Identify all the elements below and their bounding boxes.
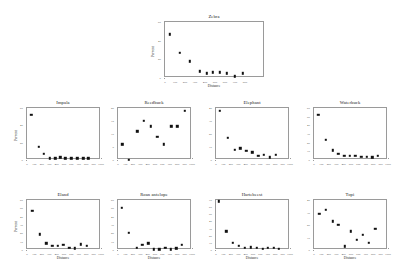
y-tick (164, 59, 165, 60)
data-point (350, 230, 352, 232)
data-point (218, 200, 220, 202)
x-tick (231, 248, 232, 249)
y-tick-label: 60 (20, 106, 23, 110)
y-tick (313, 134, 314, 135)
x-tick (34, 158, 35, 159)
x-tick (223, 158, 224, 159)
data-point (51, 245, 53, 247)
data-point (233, 148, 235, 150)
data-point (156, 135, 158, 137)
x-tick (216, 248, 217, 249)
panel-eland: Eland01002003004005006007008009001000010… (26, 192, 100, 260)
y-tick-label: 30 (209, 227, 212, 231)
x-tick-label: 900 (280, 162, 284, 166)
y-tick (26, 200, 27, 201)
y-tick-label: 50 (111, 206, 114, 210)
y-tick (117, 225, 118, 226)
x-tick-label: 100 (173, 80, 177, 84)
x-tick (192, 248, 193, 249)
x-tick-label: 600 (258, 252, 262, 256)
x-tick (42, 248, 43, 249)
y-tick (117, 121, 118, 122)
data-point (183, 109, 185, 111)
x-tick-label: 1000 (287, 162, 293, 166)
x-tick-label: 400 (54, 162, 58, 166)
plot-area: 0100200300400500600700800900100001020304… (313, 107, 387, 159)
y-tick (215, 160, 216, 161)
x-tick-label: 800 (371, 252, 375, 256)
y-tick-label: 40 (20, 123, 23, 127)
x-tick-label: 1000 (98, 162, 104, 166)
plot-area: 01002003004005006007008000204060 (164, 21, 264, 77)
x-tick-label: 900 (378, 252, 382, 256)
panel-waterbuck: Waterbuck0100200300400500600700800900100… (313, 100, 387, 170)
data-point (354, 154, 356, 156)
x-tick (253, 248, 254, 249)
y-tick (26, 160, 27, 161)
x-tick-label: 400 (203, 80, 207, 84)
data-point (57, 245, 59, 247)
y-tick-label: 5 (113, 145, 114, 149)
x-tick (155, 248, 156, 249)
data-point (38, 146, 40, 148)
x-tick (79, 158, 80, 159)
x-tick-label: 900 (91, 252, 95, 256)
x-tick (351, 248, 352, 249)
x-tick (366, 248, 367, 249)
x-tick-label: 100 (123, 252, 127, 256)
x-tick (27, 248, 28, 249)
y-tick-label: 20 (307, 223, 310, 227)
data-point (251, 151, 253, 153)
y-tick-label: 20 (111, 106, 114, 110)
x-tick (94, 158, 95, 159)
plot-area: 0100200300400500600700800900100005101520 (117, 107, 191, 159)
x-tick (215, 76, 216, 77)
x-tick-label: 200 (327, 162, 331, 166)
y-tick (313, 160, 314, 161)
x-tick (175, 76, 176, 77)
x-tick-label: 800 (243, 80, 247, 84)
x-tick (148, 248, 149, 249)
x-tick-label: 1000 (287, 252, 293, 256)
x-tick-label: 0 (215, 162, 216, 166)
data-point (179, 52, 181, 54)
x-tick-label: 0 (117, 252, 118, 256)
x-tick-label: 200 (131, 162, 135, 166)
y-tick-label: 10 (307, 149, 310, 153)
panel-zebra: Zebra01002003004005006007008000204060Per… (164, 14, 264, 88)
panel-reedbuck: Reedbuck01002003004005006007008009001000… (117, 100, 191, 170)
data-point (86, 245, 88, 247)
x-tick-label: 500 (153, 252, 157, 256)
x-tick-label: 500 (349, 252, 353, 256)
y-tick (117, 134, 118, 135)
x-tick-label: 100 (319, 162, 323, 166)
x-tick-label: 700 (168, 252, 172, 256)
y-tick (313, 238, 314, 239)
data-point (141, 244, 143, 246)
data-point (325, 139, 327, 141)
data-point (180, 244, 182, 246)
data-point (64, 157, 66, 159)
x-tick-label: 300 (138, 252, 142, 256)
x-tick-label: 0 (215, 252, 216, 256)
data-point (371, 156, 373, 158)
x-tick (260, 158, 261, 159)
data-point (337, 153, 339, 155)
y-tick (215, 243, 216, 244)
x-tick (358, 158, 359, 159)
x-tick (329, 248, 330, 249)
y-tick-label: 30 (307, 132, 310, 136)
x-tick (381, 248, 382, 249)
data-point (263, 154, 265, 156)
plot-area: 0100200300400500600700800900100001020304… (215, 199, 289, 249)
x-tick (238, 248, 239, 249)
x-tick (133, 158, 134, 159)
data-point (176, 125, 178, 127)
x-tick-label: 500 (62, 162, 66, 166)
x-tick-label: 100 (221, 252, 225, 256)
data-point (43, 153, 45, 155)
y-tick-label: 10 (111, 240, 114, 244)
x-tick (216, 158, 217, 159)
x-tick-label: 700 (77, 252, 81, 256)
x-tick-label: 200 (40, 162, 44, 166)
